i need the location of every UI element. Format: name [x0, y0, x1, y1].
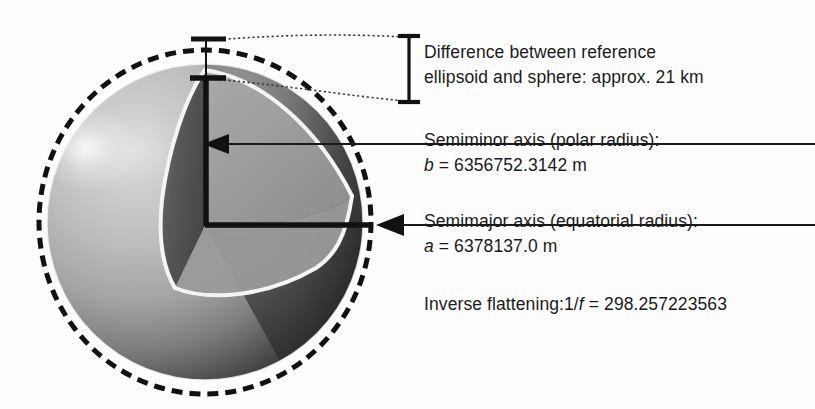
semimajor-axis-label-line1: Semimajor axis (equatorial radius): — [424, 209, 698, 234]
semimajor-equals: = 6378137.0 m — [434, 236, 558, 256]
difference-label-line2: ellipsoid and sphere: approx. 21 km — [424, 65, 704, 90]
difference-label: Difference between reference ellipsoid a… — [424, 40, 704, 90]
inverse-flattening-label: Inverse flattening:1/f = 298.257223563 — [424, 292, 727, 317]
semiminor-equals: = 6356752.3142 m — [434, 155, 587, 175]
inverse-flattening-value: Inverse flattening:1/f = 298.257223563 — [424, 292, 727, 317]
semimajor-axis-value: a = 6378137.0 m — [424, 234, 698, 259]
semimajor-symbol: a — [424, 236, 434, 256]
difference-measure-bracket — [398, 36, 420, 102]
difference-label-line1: Difference between reference — [424, 40, 704, 65]
inverse-flattening-prefix: Inverse flattening:1/ — [424, 294, 579, 314]
semiminor-axis-label-line1: Semiminor axis (polar radius): — [424, 128, 659, 153]
semiminor-symbol: b — [424, 155, 434, 175]
semimajor-axis-label: Semimajor axis (equatorial radius): a = … — [424, 209, 698, 259]
earth-sphere-cutaway — [34, 64, 363, 380]
diagram-canvas: Difference between reference ellipsoid a… — [0, 0, 815, 409]
inverse-flattening-equals: = 298.257223563 — [584, 294, 727, 314]
semiminor-axis-label: Semiminor axis (polar radius): b = 63567… — [424, 128, 659, 178]
semiminor-axis-value: b = 6356752.3142 m — [424, 153, 659, 178]
